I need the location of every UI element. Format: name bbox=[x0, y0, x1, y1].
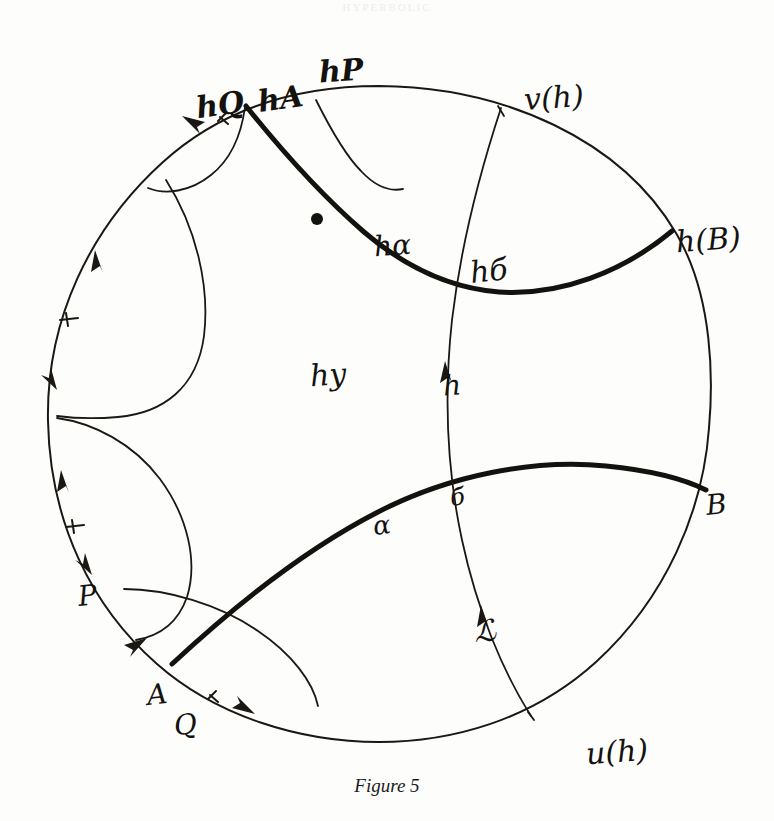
junction-u-h bbox=[528, 712, 534, 720]
boundary-tick-3 bbox=[66, 520, 84, 533]
label-alpha: α bbox=[371, 511, 392, 539]
boundary-arrowhead-4 bbox=[57, 470, 69, 493]
geodesic-left-lower bbox=[57, 418, 191, 640]
figure-container: HYPERBOLIC .thin { fill:none; stroke:#1b… bbox=[0, 0, 774, 821]
label-h-of-B: h(B) bbox=[675, 223, 742, 257]
label-hA: hA bbox=[256, 81, 305, 117]
label-Q: Q bbox=[173, 710, 199, 740]
label-hP: hP bbox=[318, 54, 364, 87]
label-u-of-h: u(h) bbox=[585, 735, 649, 769]
geodesic-left-upper bbox=[57, 180, 205, 418]
boundary-orientation-markers bbox=[41, 113, 255, 714]
boundary-arrowhead-7 bbox=[232, 696, 255, 714]
label-P: P bbox=[77, 581, 99, 611]
poincare-disk-diagram: .thin { fill:none; stroke:#1b1814; strok… bbox=[0, 0, 774, 770]
label-hQ: hQ bbox=[194, 87, 246, 123]
geodesic-hP bbox=[316, 100, 403, 190]
figure-caption: Figure 5 bbox=[0, 775, 774, 797]
label-A: A bbox=[146, 680, 169, 710]
boundary-circle bbox=[48, 86, 711, 742]
geodesic-alpha-B bbox=[172, 464, 706, 664]
boundary-junctions bbox=[498, 106, 534, 720]
label-h-alpha: hα bbox=[373, 231, 412, 262]
marked-point-on-h-alpha bbox=[311, 213, 323, 225]
label-h-b: hб bbox=[469, 254, 510, 288]
label-B: B bbox=[705, 490, 728, 520]
geodesic-h-alpha-hB bbox=[246, 106, 672, 292]
label-L: ℒ bbox=[473, 615, 497, 646]
boundary-arrowhead-2 bbox=[91, 250, 103, 273]
label-h-y: hy bbox=[309, 359, 347, 391]
label-v-of-h: v(h) bbox=[523, 81, 585, 115]
label-b: б bbox=[449, 484, 466, 509]
label-h: h bbox=[442, 371, 462, 400]
boundary-arrowhead-6 bbox=[124, 638, 147, 657]
